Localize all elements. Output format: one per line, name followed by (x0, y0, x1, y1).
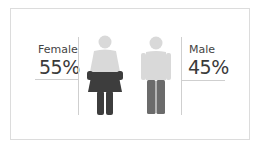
female-percent: 55% (39, 58, 80, 77)
male-right-leg (157, 80, 166, 114)
male-label: Male (189, 44, 215, 55)
male-head (150, 37, 163, 50)
female-label: Female (38, 44, 78, 55)
female-bracket-line (78, 37, 79, 115)
male-torso (146, 51, 166, 80)
female-head (99, 36, 112, 49)
male-left-leg (147, 80, 156, 114)
male-underline (181, 80, 225, 81)
male-figure-icon (140, 34, 172, 116)
male-left-arm (141, 53, 146, 80)
female-torso (90, 50, 120, 73)
female-left-leg (97, 91, 104, 115)
female-right-leg (106, 91, 113, 115)
female-skirt (88, 72, 122, 92)
male-right-arm (166, 53, 171, 80)
female-underline (35, 79, 79, 80)
male-percent: 45% (188, 58, 229, 77)
female-figure-icon (85, 34, 125, 116)
male-bracket-line (181, 37, 182, 115)
